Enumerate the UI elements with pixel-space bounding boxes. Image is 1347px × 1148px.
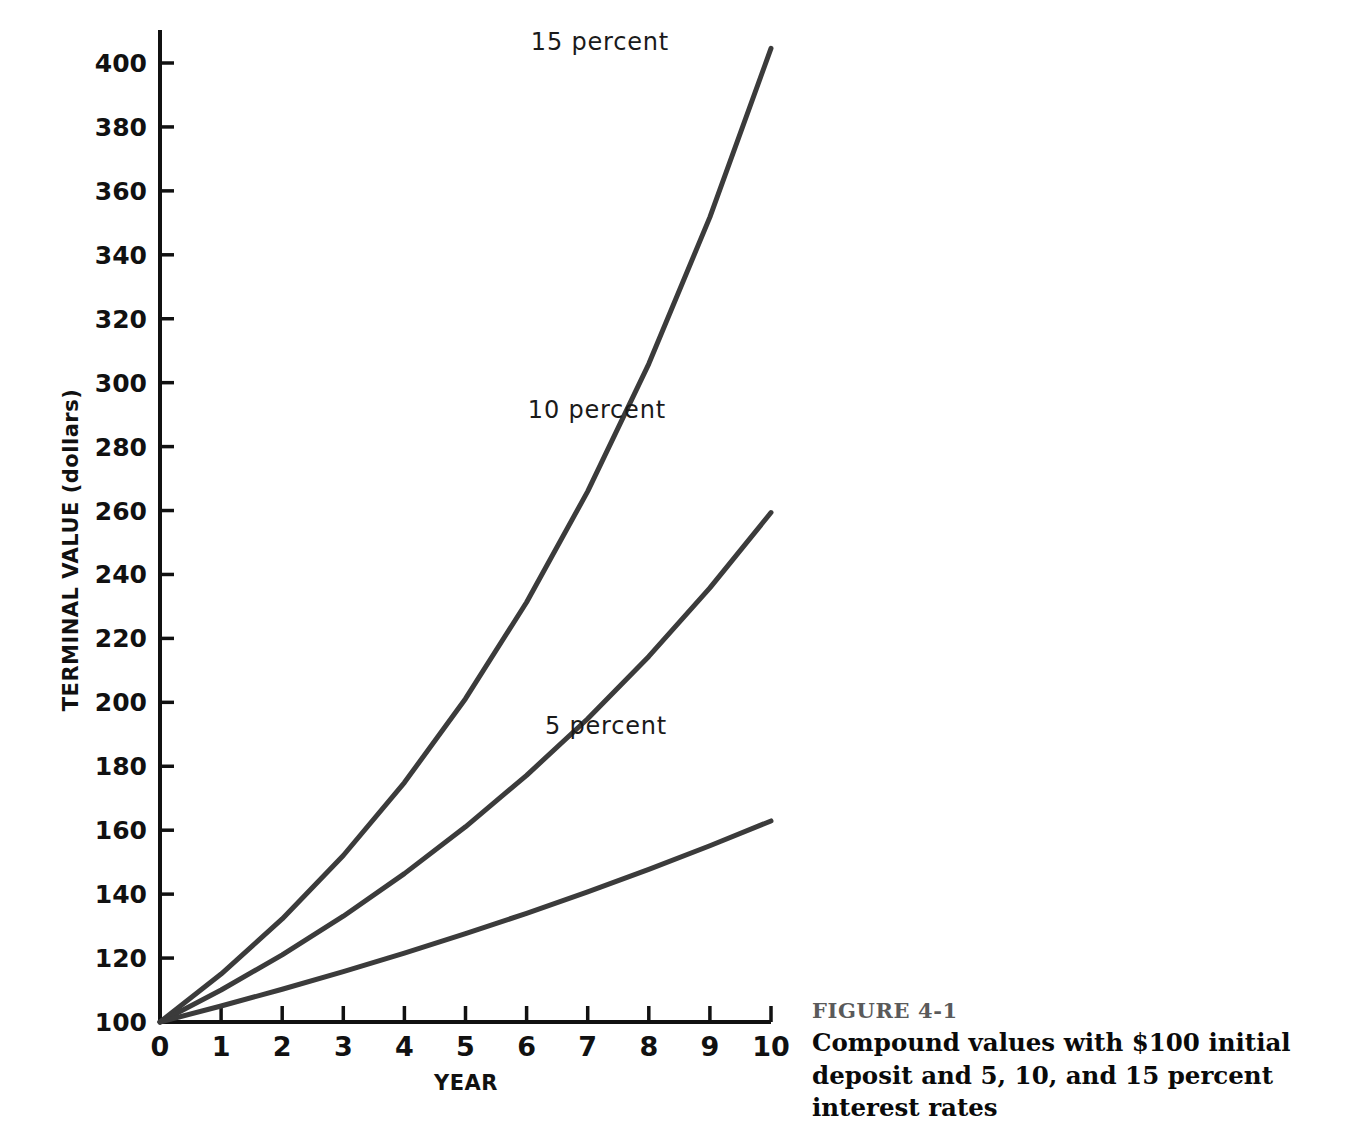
x-axis-tick-labels-group: 012345678910 (151, 1031, 790, 1062)
y-axis-tick-label: 180 (95, 752, 147, 781)
y-axis-tick-label: 260 (95, 497, 147, 526)
data-series-group (160, 48, 771, 1022)
x-axis-tick-label: 8 (639, 1031, 658, 1062)
figure-caption-text: Compound values with $100 initial deposi… (812, 1027, 1332, 1124)
x-axis-tick-label: 7 (578, 1031, 597, 1062)
series-annotation: 15 percent (531, 28, 669, 56)
y-axis-tick-label: 320 (95, 305, 147, 334)
x-axis-ticks-group (221, 1006, 771, 1022)
axes-group (160, 30, 771, 1022)
x-axis-tick-label: 5 (456, 1031, 475, 1062)
x-axis-tick-label: 1 (212, 1031, 231, 1062)
series-line-0-05 (160, 821, 771, 1022)
compound-value-line-chart: 1001201401601802002202402602803003203403… (0, 0, 1347, 1148)
x-axis-tick-label: 2 (273, 1031, 292, 1062)
y-axis-tick-label: 200 (95, 688, 147, 717)
x-axis-tick-label: 10 (752, 1031, 790, 1062)
x-axis-title: YEAR (433, 1071, 498, 1095)
y-axis-tick-label: 340 (95, 241, 147, 270)
y-axis-tick-label: 220 (95, 624, 147, 653)
figure-number-label: FIGURE 4-1 (812, 998, 1332, 1024)
figure-container: 1001201401601802002202402602803003203403… (0, 0, 1347, 1148)
y-axis-tick-labels-group: 1001201401601802002202402602803003203403… (95, 49, 147, 1037)
x-axis-tick-label: 6 (517, 1031, 536, 1062)
y-axis-tick-label: 100 (95, 1008, 147, 1037)
y-axis-tick-label: 120 (95, 944, 147, 973)
y-axis-tick-label: 140 (95, 880, 147, 909)
figure-caption-block: FIGURE 4-1 Compound values with $100 ini… (812, 998, 1332, 1124)
y-axis-tick-label: 280 (95, 433, 147, 462)
series-annotation: 10 percent (528, 396, 666, 424)
series-annotation: 5 percent (545, 712, 667, 740)
series-line-0-15 (160, 48, 771, 1022)
y-axis-tick-label: 240 (95, 560, 147, 589)
x-axis-tick-label: 4 (395, 1031, 414, 1062)
y-axis-tick-label: 160 (95, 816, 147, 845)
y-axis-tick-label: 360 (95, 177, 147, 206)
x-axis-tick-label: 9 (701, 1031, 720, 1062)
y-axis-tick-label: 380 (95, 113, 147, 142)
y-axis-tick-label: 400 (95, 49, 147, 78)
y-axis-tick-label: 300 (95, 369, 147, 398)
y-axis-title: TERMINAL VALUE (dollars) (59, 389, 83, 712)
x-axis-tick-label: 3 (334, 1031, 353, 1062)
y-axis-ticks-group (160, 63, 174, 958)
series-annotations-group: 15 percent10 percent5 percent (528, 28, 669, 740)
x-axis-tick-label: 0 (151, 1031, 170, 1062)
